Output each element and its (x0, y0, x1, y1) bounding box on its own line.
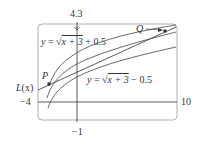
upper-eq: = (48, 36, 54, 47)
sqrt-icon: √x + 3 (102, 74, 129, 85)
ymax-label: 4.3 (70, 9, 83, 19)
lower-curve-label: y = √x + 3 − 0.5 (87, 75, 152, 85)
line-label: L(x) (16, 83, 33, 93)
upper-y: y (41, 36, 45, 47)
xmax-label: 10 (181, 97, 191, 107)
upper-tail: + 0.5 (85, 36, 106, 47)
lower-eq: = (94, 74, 100, 85)
xmin-label: −4 (20, 97, 31, 107)
ymin-label: −1 (72, 127, 83, 137)
point-Q (163, 29, 167, 33)
lower-y: y (87, 74, 91, 85)
lower-tail: − 0.5 (131, 74, 152, 85)
point-P (47, 82, 51, 86)
upper-curve-label: y = √x + 3 + 0.5 (41, 37, 106, 47)
point-P-label: P (42, 71, 48, 81)
point-Q-label: Q (136, 24, 143, 34)
sqrt-icon: √x + 3 (56, 36, 83, 47)
graph-canvas (0, 0, 200, 146)
